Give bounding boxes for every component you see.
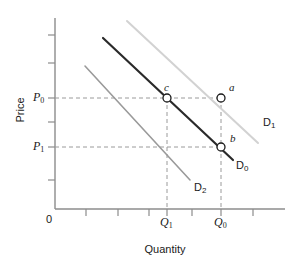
q1-sub: 1 [169, 221, 173, 230]
d2-sub: 2 [202, 186, 206, 195]
p1-sub: 1 [40, 145, 44, 154]
y-axis-title: Price [14, 80, 26, 140]
q0-sub: 0 [223, 221, 227, 230]
p0-sub: 0 [40, 96, 44, 105]
origin-label: 0 [46, 213, 52, 225]
point-label-b: b [230, 132, 236, 144]
x-tick-label-q0: Q0 [214, 215, 227, 230]
point-marker-a [217, 94, 225, 102]
demand-curves [85, 21, 258, 180]
d0-base: D [236, 159, 244, 171]
axes-group [55, 18, 285, 209]
curve-label-d2: D2 [194, 181, 206, 193]
curve-label-d1: D1 [263, 116, 275, 128]
curve-label-d0: D0 [236, 159, 248, 171]
point-marker-b [217, 143, 225, 151]
y-axis-ticks [48, 35, 55, 180]
d1-base: D [263, 116, 271, 128]
d0-sub: 0 [244, 164, 248, 173]
curve-d2 [85, 66, 190, 180]
point-marker-c [163, 94, 171, 102]
x-axis-title: Quantity [110, 243, 220, 255]
y-tick-label-p1: P1 [33, 139, 44, 154]
point-label-a: a [229, 81, 235, 93]
q0-base: Q [214, 215, 223, 229]
point-label-c: c [164, 81, 169, 93]
x-tick-label-q1: Q1 [160, 215, 173, 230]
d2-base: D [194, 181, 202, 193]
d1-sub: 1 [271, 121, 275, 130]
q1-base: Q [160, 215, 169, 229]
curve-d1 [127, 21, 258, 143]
y-tick-label-p0: P0 [33, 90, 44, 105]
demand-shift-chart: Price Quantity 0 P0 P1 Q1 Q0 D1 D0 D2 c … [0, 0, 291, 272]
chart-canvas [0, 0, 291, 272]
